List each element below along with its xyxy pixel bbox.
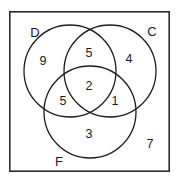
region-value-d-c-f: 2 [86, 79, 93, 93]
set-label-f: F [55, 154, 63, 169]
venn-canvas: D C F 9 4 3 5 5 1 2 7 [0, 0, 180, 184]
region-value-c-and-f: 1 [112, 94, 119, 108]
set-label-d: D [30, 25, 39, 40]
region-value-d-and-f: 5 [60, 94, 67, 108]
set-label-c: C [147, 24, 156, 39]
region-value-d-and-c: 5 [86, 46, 93, 60]
region-value-outside: 7 [147, 137, 154, 151]
region-value-c-only: 4 [126, 52, 133, 66]
region-value-d-only: 9 [40, 54, 47, 68]
venn-diagram: D C F 9 4 3 5 5 1 2 7 [0, 0, 180, 184]
region-value-f-only: 3 [86, 127, 93, 141]
